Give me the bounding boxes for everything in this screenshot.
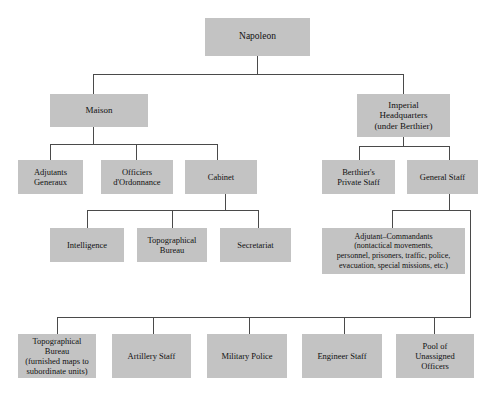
node-pool-unassigned-officers-label: Pool of Unassigned Officers [396,341,474,371]
edge-to-maison [93,74,94,94]
node-engineer-staff-label: Engineer Staff [302,351,382,361]
edge-to-secretariat [258,210,259,228]
node-topographical-bureau-gs[interactable]: Topographical Bureau (furnished maps to … [18,334,96,378]
edge-to-engineer-staff [344,317,345,334]
node-adjutant-commandants[interactable]: Adjutant–Commandants (nontactical moveme… [322,228,465,274]
edge-to-imperial-hq [403,74,404,94]
edge-to-intelligence [87,210,88,228]
node-intelligence[interactable]: Intelligence [50,228,124,262]
edge-maison-stem [93,127,94,144]
node-topographical-bureau-cabinet-label: Topographical Bureau [137,235,207,255]
node-pool-unassigned-officers[interactable]: Pool of Unassigned Officers [396,334,474,378]
edge-to-cabinet [217,144,218,160]
edge-to-general-staff [449,146,450,160]
edge-general-staff-right-drop [470,210,471,317]
node-officiers-ordonnance-label: Officiers d'Ordonnance [101,167,173,187]
edge-maison-bar [50,144,217,145]
edge-to-artillery-staff [153,317,154,334]
node-engineer-staff[interactable]: Engineer Staff [302,334,382,378]
node-military-police[interactable]: Military Police [207,334,287,378]
node-adjutants-generaux[interactable]: Adjutants Generaux [18,160,83,194]
node-secretariat[interactable]: Secretariat [220,228,291,262]
node-adjutants-generaux-label: Adjutants Generaux [18,167,83,187]
node-berthiers-private-staff[interactable]: Berthier's Private Staff [322,160,395,194]
node-imperial-hq[interactable]: Imperial Headquarters (under Berthier) [357,94,450,137]
edge-to-berthiers-private-staff [359,146,360,160]
edge-napoleon-bar [93,74,404,75]
node-artillery-staff[interactable]: Artillery Staff [112,334,191,378]
edge-to-officiers-ordonnance [136,144,137,160]
edge-napoleon-stem [257,56,258,74]
edge-general-staff-stem [449,194,450,210]
edge-imperial-hq-bar [359,146,449,147]
edge-imperial-hq-stem [403,137,404,146]
node-napoleon-label: Napoleon [205,31,310,42]
node-maison-label: Maison [50,105,148,116]
node-topographical-bureau-gs-label: Topographical Bureau (furnished maps to … [18,336,96,376]
edge-cabinet-stem [225,194,226,210]
node-imperial-hq-label: Imperial Headquarters (under Berthier) [357,100,450,132]
node-military-police-label: Military Police [207,351,287,361]
node-napoleon[interactable]: Napoleon [205,18,310,56]
edge-to-adjutant-commandants [392,210,393,228]
node-intelligence-label: Intelligence [50,240,124,250]
edge-bottom-row-bar [57,317,471,318]
node-general-staff[interactable]: General Staff [407,160,478,194]
node-cabinet-label: Cabinet [185,172,257,182]
node-berthiers-private-staff-label: Berthier's Private Staff [322,167,395,187]
org-chart: Napoleon Maison Imperial Headquarters (u… [0,0,496,396]
node-secretariat-label: Secretariat [220,240,291,250]
node-maison[interactable]: Maison [50,94,148,127]
edge-to-adjutants-generaux [50,144,51,160]
node-general-staff-label: General Staff [407,172,478,182]
node-cabinet[interactable]: Cabinet [185,160,257,194]
node-officiers-ordonnance[interactable]: Officiers d'Ordonnance [101,160,173,194]
edge-to-topographical-bureau-cabinet [172,210,173,228]
edge-to-pool-unassigned-officers [434,317,435,334]
edge-to-topographical-bureau-gs [57,317,58,334]
node-adjutant-commandants-label: Adjutant–Commandants (nontactical moveme… [322,232,465,271]
node-artillery-staff-label: Artillery Staff [112,351,191,361]
edge-general-staff-bar [392,210,471,211]
edge-to-military-police [249,317,250,334]
node-topographical-bureau-cabinet[interactable]: Topographical Bureau [137,228,207,262]
